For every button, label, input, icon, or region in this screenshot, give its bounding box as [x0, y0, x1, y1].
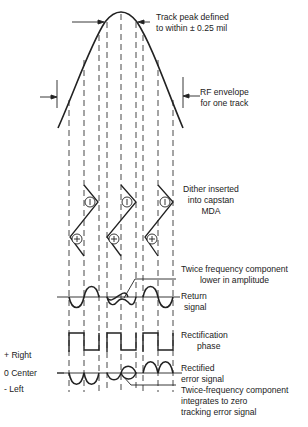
- rectified-error-label: Rectified error signal: [181, 363, 224, 385]
- rectification-phase: [69, 333, 173, 352]
- twice-frequency-lower-label: Twice frequency component lower in ampli…: [181, 264, 288, 286]
- return-signal: [57, 279, 180, 308]
- rectification-phase-line1: Rectification: [181, 330, 228, 341]
- twice-frequency-integrates-line1: Twice-frequency component: [181, 385, 288, 396]
- twice-frequency-lower-line1: Twice frequency component: [181, 264, 288, 275]
- dither-line2: into capstan: [183, 195, 239, 206]
- twice-frequency-integrates-line2: integrates to zero: [181, 396, 288, 407]
- return-signal-label: Return signal: [181, 291, 207, 313]
- twice-frequency-integrates-label: Twice-frequency component integrates to …: [181, 385, 288, 418]
- rf-envelope-markers: [40, 77, 200, 108]
- return-signal-line1: Return: [181, 291, 207, 302]
- twice-frequency-integrates-line3: tracking error signal: [181, 407, 288, 418]
- rectified-error-line1: Rectified: [181, 363, 224, 374]
- axis-left-label: - Left: [4, 384, 24, 395]
- track-peak-line2: to within ± 0.25 mil: [156, 23, 229, 34]
- rectification-phase-label: Rectification phase: [181, 330, 228, 352]
- track-peak-label: Track peak defined to within ± 0.25 mil: [156, 12, 229, 34]
- dither-line1: Dither inserted: [183, 184, 239, 195]
- axis-right-label: + Right: [4, 350, 31, 361]
- rf-envelope-line2: for one track: [200, 98, 249, 109]
- tracking-diagram: [0, 0, 308, 427]
- return-signal-line2: signal: [181, 302, 207, 313]
- rf-envelope-line1: RF envelope: [200, 87, 249, 98]
- axis-center-label: 0 Center: [4, 368, 37, 379]
- track-peak-line1: Track peak defined: [156, 12, 229, 23]
- rectified-error-line2: error signal: [181, 374, 224, 385]
- rectification-phase-line2: phase: [181, 341, 228, 352]
- dither-line3: MDA: [183, 206, 239, 217]
- twice-frequency-lower-line2: lower in amplitude: [181, 275, 288, 286]
- dither-label: Dither inserted into capstan MDA: [183, 184, 239, 217]
- rectified-error-signal: [57, 362, 182, 385]
- rf-envelope-label: RF envelope for one track: [200, 87, 249, 109]
- dither-plus-markers: [72, 234, 157, 244]
